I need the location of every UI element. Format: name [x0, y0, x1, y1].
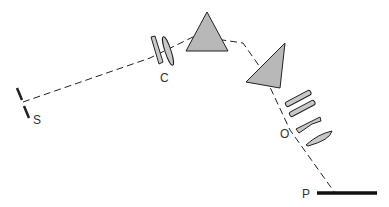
prism-1	[186, 12, 228, 51]
slit	[17, 88, 29, 118]
slit-label: S	[33, 113, 41, 127]
spectrograph-diagram: S C O P	[0, 0, 389, 207]
collimator-label: C	[160, 71, 169, 85]
objective-label: O	[280, 127, 289, 141]
plate-label: P	[302, 187, 310, 201]
prism-2	[246, 43, 285, 88]
objective-lens-group	[285, 90, 332, 146]
light-path	[23, 36, 335, 193]
